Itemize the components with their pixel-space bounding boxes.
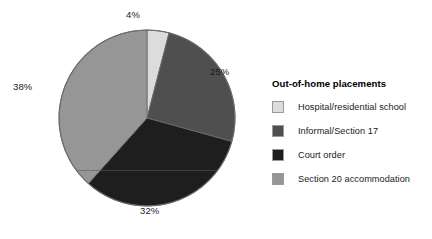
legend-item-label: Section 20 accommodation — [298, 174, 410, 184]
legend-item-hospital-residential-school: Hospital/residential school — [272, 100, 432, 113]
pie-value-label-section-20-accommodation: 38% — [13, 81, 32, 92]
legend-swatch-icon — [272, 125, 284, 137]
pie-chart-figure: 4% 25% 32% 38% Out-of-home placements Ho… — [0, 0, 432, 239]
legend-swatch-icon — [272, 173, 284, 185]
legend-item-label: Court order — [298, 150, 345, 160]
legend-title: Out-of-home placements — [272, 78, 432, 89]
pie-svg — [0, 0, 262, 239]
pie-value-label-informal-section-17: 25% — [210, 66, 229, 77]
pie-value-label-hospital-residential-school: 4% — [126, 9, 140, 20]
legend-swatch-icon — [272, 149, 284, 161]
legend-swatch-icon — [272, 101, 284, 113]
legend-item-court-order: Court order — [272, 148, 432, 161]
legend-item-label: Informal/Section 17 — [298, 126, 378, 136]
pie-value-label-court-order: 32% — [140, 205, 159, 216]
pie-plot-area: 4% 25% 32% 38% — [0, 0, 262, 239]
legend-item-label: Hospital/residential school — [298, 102, 406, 112]
scan-line-artifact — [76, 170, 218, 171]
legend-item-informal-section-17: Informal/Section 17 — [272, 124, 432, 137]
legend-item-section-20-accommodation: Section 20 accommodation — [272, 172, 432, 185]
chart-legend: Out-of-home placements Hospital/resident… — [272, 78, 432, 185]
pie-slice-group — [59, 30, 235, 206]
